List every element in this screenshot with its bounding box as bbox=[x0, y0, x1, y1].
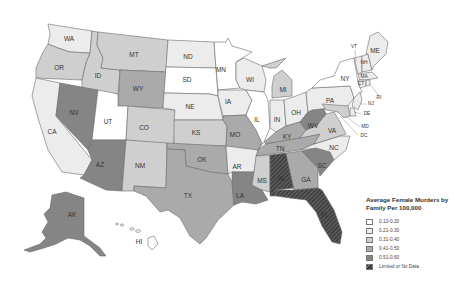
label-AK: AK bbox=[68, 211, 77, 218]
label-ID: ID bbox=[95, 72, 102, 79]
label-LA: LA bbox=[236, 192, 245, 199]
label-RI: RI bbox=[377, 95, 382, 100]
label-AZ: AZ bbox=[96, 161, 104, 168]
label-DE: DE bbox=[364, 111, 371, 116]
map-legend: Average Female Murders by Family Per 100… bbox=[366, 196, 450, 271]
legend-item: 0.31-0.40 bbox=[366, 235, 450, 244]
label-OR: OR bbox=[54, 64, 64, 71]
legend-swatch-hatched bbox=[366, 264, 373, 270]
state-AR bbox=[226, 146, 258, 174]
label-AL: AL bbox=[278, 175, 286, 182]
label-WV: WV bbox=[308, 122, 319, 129]
legend-item: 0.21-0.30 bbox=[366, 226, 450, 235]
label-MA: MA bbox=[360, 74, 368, 79]
label-CT: CT bbox=[358, 81, 364, 86]
label-CO: CO bbox=[139, 124, 149, 131]
label-VA: VA bbox=[328, 127, 337, 134]
label-FL: FL bbox=[321, 211, 329, 218]
legend-swatch bbox=[366, 246, 373, 252]
state-AK bbox=[24, 192, 106, 256]
state-HI bbox=[116, 223, 159, 250]
label-KY: KY bbox=[283, 133, 292, 140]
legend-swatch bbox=[366, 255, 373, 261]
label-ME: ME bbox=[370, 47, 380, 54]
legend-item: Limited or No Data bbox=[366, 262, 450, 271]
leader-RI bbox=[370, 84, 378, 95]
legend-title-line1: Average Female Murders by bbox=[366, 196, 450, 204]
legend-label: 0.41-0.50 bbox=[379, 246, 399, 251]
label-NJ: NJ bbox=[368, 101, 374, 106]
legend-swatch bbox=[366, 219, 373, 225]
label-MD: MD bbox=[361, 124, 369, 129]
label-GA: GA bbox=[301, 176, 311, 183]
legend-title-line2: Family Per 100,000 bbox=[366, 204, 450, 212]
label-CA: CA bbox=[47, 128, 57, 135]
state-DE bbox=[350, 108, 356, 116]
legend-label: 0.21-0.30 bbox=[379, 228, 399, 233]
label-MO: MO bbox=[230, 131, 240, 138]
label-WY: WY bbox=[133, 85, 144, 92]
state-KS bbox=[174, 120, 227, 146]
label-OK: OK bbox=[197, 156, 207, 163]
label-WA: WA bbox=[64, 35, 75, 42]
label-VT: VT bbox=[351, 44, 357, 49]
legend-item: 0.51-0.60 bbox=[366, 253, 450, 262]
label-TX: TX bbox=[184, 192, 193, 199]
label-KS: KS bbox=[192, 129, 201, 136]
label-MS: MS bbox=[257, 177, 267, 184]
label-WI: WI bbox=[246, 76, 254, 83]
legend-swatch bbox=[366, 228, 373, 234]
label-MN: MN bbox=[216, 66, 226, 73]
legend-item: 0.41-0.50 bbox=[366, 244, 450, 253]
leader-MD bbox=[346, 116, 360, 127]
state-RI bbox=[366, 80, 370, 86]
legend-label: 0.10-0.20 bbox=[379, 219, 399, 224]
label-DC: DC bbox=[361, 133, 368, 138]
label-IN: IN bbox=[274, 116, 281, 123]
label-IL: IL bbox=[254, 116, 260, 123]
label-PA: PA bbox=[326, 97, 335, 104]
label-NY: NY bbox=[340, 75, 350, 82]
legend-label: Limited or No Data bbox=[379, 264, 419, 269]
label-HI: HI bbox=[136, 238, 143, 245]
legend-label: 0.51-0.60 bbox=[379, 255, 399, 260]
label-NV: NV bbox=[69, 109, 79, 116]
label-IA: IA bbox=[225, 98, 232, 105]
label-SC: SC bbox=[317, 162, 326, 169]
label-UT: UT bbox=[104, 118, 113, 125]
legend-swatch bbox=[366, 237, 373, 243]
label-OH: OH bbox=[291, 109, 301, 116]
legend-label: 0.31-0.40 bbox=[379, 237, 399, 242]
label-NM: NM bbox=[135, 162, 145, 169]
state-MI bbox=[262, 58, 292, 98]
label-NC: NC bbox=[329, 144, 339, 151]
label-AR: AR bbox=[232, 163, 241, 170]
legend-title: Average Female Murders by Family Per 100… bbox=[366, 196, 450, 211]
label-MI: MI bbox=[279, 86, 286, 93]
legend-item: 0.10-0.20 bbox=[366, 217, 450, 226]
state-CO bbox=[126, 106, 175, 145]
label-SD: SD bbox=[182, 76, 191, 83]
label-NE: NE bbox=[185, 103, 195, 110]
state-FL bbox=[276, 188, 342, 244]
label-ND: ND bbox=[183, 53, 193, 60]
label-MT: MT bbox=[129, 51, 138, 58]
label-NH: NH bbox=[361, 60, 368, 65]
label-TN: TN bbox=[276, 145, 285, 152]
